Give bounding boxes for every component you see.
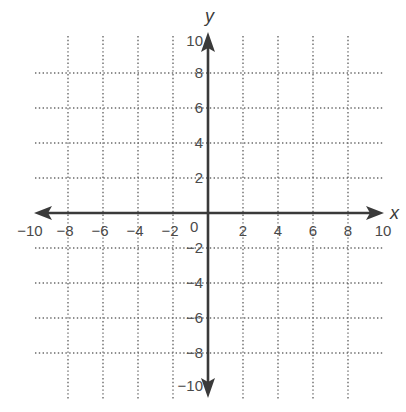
x-tick-label: −6 <box>91 222 108 239</box>
x-tick-label: 4 <box>274 222 282 239</box>
x-axis-label: x <box>389 203 400 223</box>
y-tick-label: −8 <box>186 344 203 361</box>
y-tick-label: −6 <box>186 309 203 326</box>
y-tick-label: 2 <box>195 169 203 186</box>
y-axis-label: y <box>203 6 215 26</box>
grid <box>35 36 384 400</box>
x-tick-label: −8 <box>56 222 73 239</box>
coordinate-plane: y x 0 −10−8−6−4−2246810 108642−2−4−6−8−1… <box>0 0 406 412</box>
x-tick-label: 10 <box>375 222 392 239</box>
y-tick-label: 8 <box>195 64 203 81</box>
x-tick-label: −4 <box>126 222 143 239</box>
y-tick-label: 4 <box>195 134 203 151</box>
x-tick-label: −10 <box>17 222 42 239</box>
x-tick-label: 6 <box>309 222 317 239</box>
y-tick-label: −4 <box>186 274 203 291</box>
x-tick-label: −2 <box>161 222 178 239</box>
x-tick-label: 8 <box>344 222 352 239</box>
x-tick-labels: −10−8−6−4−2246810 <box>17 222 391 239</box>
x-tick-label: 2 <box>239 222 247 239</box>
y-tick-label: −2 <box>186 239 203 256</box>
y-tick-label: 10 <box>186 32 203 49</box>
y-tick-label: −10 <box>178 377 203 394</box>
origin-label: 0 <box>190 218 198 235</box>
y-tick-label: 6 <box>195 99 203 116</box>
